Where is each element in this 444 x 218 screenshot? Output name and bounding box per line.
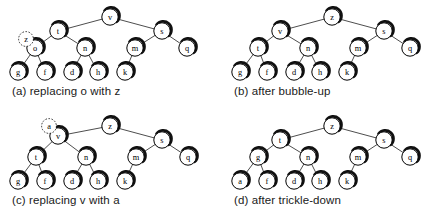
tree-node: g bbox=[10, 62, 28, 80]
tree-diagram-a: vtsonmqgfdhkz bbox=[0, 0, 222, 86]
tree-node: n bbox=[77, 38, 95, 56]
panel-d: ztsgnmqafdhk (d) after trickle-down bbox=[222, 109, 444, 218]
tree-node: f bbox=[37, 171, 55, 189]
tree-node: h bbox=[90, 171, 108, 189]
tree-node: t bbox=[272, 130, 290, 148]
tree-node: z bbox=[324, 116, 342, 134]
panel-caption-b: (b) after bubble-up bbox=[222, 84, 444, 98]
tree-node: q bbox=[179, 38, 197, 56]
tree-diagram-c: zvstnmqgfdhka bbox=[0, 109, 222, 195]
tree-node: m bbox=[128, 147, 146, 165]
tree-node: n bbox=[78, 147, 96, 165]
tree-node: m bbox=[350, 38, 368, 56]
tree-node: t bbox=[250, 38, 268, 56]
tree-node-label: f bbox=[266, 68, 269, 77]
tree-node-label: f bbox=[44, 177, 47, 186]
tree-node: t bbox=[50, 21, 68, 39]
tree-node-label: f bbox=[266, 177, 269, 186]
tree-node: f bbox=[259, 62, 277, 80]
tree-node: g bbox=[10, 171, 28, 189]
panel-caption-c: (c) replacing v with a bbox=[0, 193, 234, 207]
tree-node-label: m bbox=[355, 153, 362, 162]
tree-node: v bbox=[272, 21, 290, 39]
tree-node: z bbox=[102, 116, 120, 134]
panel-caption-d: (d) after trickle-down bbox=[222, 193, 444, 207]
tree-node: d bbox=[286, 171, 304, 189]
panel-a: vtsonmqgfdhkz (a) replacing o with z bbox=[0, 0, 222, 109]
tree-node-label: s bbox=[160, 27, 163, 36]
tree-node: g bbox=[250, 147, 268, 165]
tree-node-label: m bbox=[355, 44, 362, 53]
tree-diagram-d: ztsgnmqafdhk bbox=[222, 109, 444, 195]
tree-node: a bbox=[232, 171, 250, 189]
tree-node: h bbox=[312, 62, 330, 80]
tree-node: k bbox=[339, 171, 357, 189]
tree-node-label: z bbox=[330, 13, 334, 22]
tree-node: m bbox=[350, 147, 368, 165]
tree-node: s bbox=[376, 130, 394, 148]
tree-node-label: f bbox=[44, 68, 47, 77]
tree-node-label: z bbox=[108, 122, 112, 131]
tree-node: q bbox=[402, 38, 420, 56]
tree-node: m bbox=[127, 38, 145, 56]
tree-node: f bbox=[259, 171, 277, 189]
tree-node-label: a bbox=[47, 122, 51, 131]
tree-node: q bbox=[180, 147, 198, 165]
tree-node: k bbox=[117, 62, 135, 80]
panel-caption-a: (a) replacing o with z bbox=[0, 84, 234, 98]
tree-node-ghost: a bbox=[42, 119, 57, 134]
panel-b: zvstnmqgfdhk (b) after bubble-up bbox=[222, 0, 444, 109]
panel-c: zvstnmqgfdhka (c) replacing v with a bbox=[0, 109, 222, 218]
tree-node-label: s bbox=[160, 136, 163, 145]
tree-node-label: o bbox=[33, 44, 37, 53]
tree-node: d bbox=[286, 62, 304, 80]
heap-operations-figure: vtsonmqgfdhkz (a) replacing o with z zvs… bbox=[0, 0, 444, 218]
tree-node-label: z bbox=[330, 122, 334, 131]
tree-node: f bbox=[37, 62, 55, 80]
tree-node: h bbox=[90, 62, 108, 80]
tree-node-label: s bbox=[382, 27, 385, 36]
tree-node: z bbox=[324, 7, 342, 25]
tree-node: s bbox=[154, 21, 172, 39]
tree-node-ghost: z bbox=[19, 32, 34, 47]
tree-diagram-b: zvstnmqgfdhk bbox=[222, 0, 444, 86]
tree-node: g bbox=[232, 62, 250, 80]
tree-node-label: z bbox=[24, 35, 28, 44]
tree-node: d bbox=[64, 171, 82, 189]
tree-node: h bbox=[312, 171, 330, 189]
tree-node: n bbox=[300, 147, 318, 165]
tree-node-label: m bbox=[133, 153, 140, 162]
tree-node-label: m bbox=[132, 44, 139, 53]
tree-node-label: s bbox=[382, 136, 385, 145]
tree-node: s bbox=[154, 130, 172, 148]
tree-node: v bbox=[102, 7, 120, 25]
tree-node: s bbox=[376, 21, 394, 39]
tree-node: k bbox=[117, 171, 135, 189]
tree-node: q bbox=[402, 147, 420, 165]
tree-node: n bbox=[300, 38, 318, 56]
tree-node: d bbox=[64, 62, 82, 80]
tree-node-label: a bbox=[238, 177, 242, 186]
tree-node: t bbox=[28, 147, 46, 165]
tree-node: k bbox=[339, 62, 357, 80]
